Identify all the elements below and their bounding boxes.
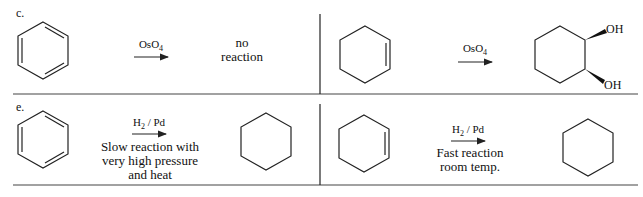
result-line: no [212, 36, 272, 50]
no-reaction-text: no reaction [212, 36, 272, 64]
row-label-c: c. [16, 6, 24, 21]
reagent-label: H2 / Pd [124, 116, 174, 131]
wedge-bond-top [585, 29, 607, 40]
reagent-catalyst: / Pd [464, 123, 484, 135]
reagent-catalyst: / Pd [145, 116, 165, 128]
condition-line: Fast reaction [425, 146, 515, 160]
condition-line: very high pressure [92, 154, 208, 168]
result-line: reaction [212, 50, 272, 64]
cyclohexane-structure [241, 113, 291, 170]
cyclohexanediol-structure [535, 26, 585, 83]
reagent-text: H [133, 116, 141, 128]
reagent-label: OsO4 [128, 38, 174, 53]
benzene-structure [18, 22, 68, 79]
row-label-e: e. [16, 100, 24, 115]
reagent-subscript: 4 [159, 44, 163, 53]
cyclohexane-structure [563, 119, 613, 176]
benzene-structure [18, 111, 68, 168]
cyclohexene-structure [340, 26, 390, 83]
reaction-conditions: Slow reaction with very high pressure an… [92, 140, 208, 182]
reagent-text: OsO [463, 42, 483, 54]
cyclohexene-structure [339, 115, 389, 172]
reagent-label: H2 / Pd [443, 123, 493, 138]
condition-line: and heat [92, 168, 208, 182]
condition-line: room temp. [425, 160, 515, 174]
reagent-text: H [452, 123, 460, 135]
reagent-text: OsO [139, 38, 159, 50]
reagent-label: OsO4 [452, 42, 498, 57]
hydroxyl-label-top: OH [606, 22, 623, 37]
reaction-conditions: Fast reaction room temp. [425, 146, 515, 174]
wedge-bond-bottom [585, 69, 605, 84]
hydroxyl-label-bottom: OH [604, 78, 621, 93]
reagent-subscript: 4 [483, 48, 487, 57]
condition-line: Slow reaction with [92, 140, 208, 154]
